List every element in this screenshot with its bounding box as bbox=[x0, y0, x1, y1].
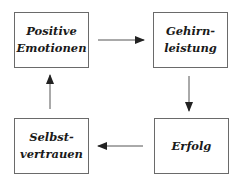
node-label-line: Gehirn- bbox=[164, 23, 217, 40]
node-label-line: Selbst- bbox=[20, 129, 83, 146]
node-positive-emotionen: Positive Emotionen bbox=[14, 12, 89, 68]
node-label-line: Emotionen bbox=[17, 40, 87, 57]
node-label-line: vertrauen bbox=[20, 146, 83, 163]
node-label-line: Erfolg bbox=[172, 138, 212, 155]
node-erfolg: Erfolg bbox=[154, 118, 229, 174]
node-label-line: Positive bbox=[17, 23, 87, 40]
node-selbstvertrauen: Selbst- vertrauen bbox=[14, 118, 89, 174]
node-label-line: leistung bbox=[164, 40, 217, 57]
node-gehirnleistung: Gehirn- leistung bbox=[153, 12, 228, 68]
